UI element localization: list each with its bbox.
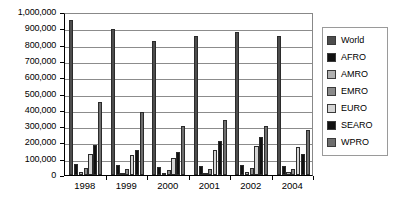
chart-legend: WorldAFROAMROEMROEUROSEAROWPRO [322, 27, 388, 156]
bar-afro-1999 [116, 165, 120, 175]
legend-item-label: EMRO [341, 87, 368, 96]
x-axis-tick-label: 1998 [64, 180, 106, 191]
y-axis: 1,000,000900,000800,000700,000600,000500… [0, 0, 60, 210]
x-axis-tick-label: 2004 [272, 180, 314, 191]
bar-searo-2001 [218, 141, 222, 175]
bar-group [273, 14, 315, 175]
bar-world-1999 [111, 29, 115, 175]
x-axis-tick-label: 1999 [106, 180, 148, 191]
bar-group [65, 14, 107, 175]
bar-wpro-1999 [140, 112, 144, 175]
y-axis-tick-label: 800,000 [25, 41, 56, 50]
bar-searo-2002 [259, 137, 263, 175]
bar-world-2000 [152, 41, 156, 175]
bar-wpro-2000 [181, 126, 185, 175]
y-axis-tick-label: 0 [51, 171, 56, 180]
bar-emro-1998 [84, 168, 88, 175]
bar-emro-1999 [125, 169, 129, 175]
plot-area [64, 13, 313, 176]
legend-swatch-icon [327, 70, 336, 79]
bar-chart: 1,000,000900,000800,000700,000600,000500… [0, 0, 394, 210]
y-axis-tick-label: 300,000 [25, 122, 56, 131]
legend-swatch-icon [327, 36, 336, 45]
bar-amro-2000 [162, 173, 166, 175]
bar-euro-2001 [213, 150, 217, 175]
bar-group [231, 14, 273, 175]
bar-wpro-2001 [223, 120, 227, 175]
legend-item-label: SEARO [341, 121, 373, 130]
x-axis-tick-mark [313, 176, 314, 180]
bar-emro-2002 [250, 168, 254, 175]
legend-item-searo[interactable]: SEARO [327, 117, 384, 134]
y-axis-tick-label: 600,000 [25, 73, 56, 82]
bar-afro-1998 [74, 164, 78, 175]
bar-emro-2001 [208, 169, 212, 175]
x-axis: 199819992000200120022004 [64, 180, 313, 198]
bar-world-1998 [69, 20, 73, 175]
bar-searo-2000 [176, 152, 180, 175]
bar-euro-1998 [88, 154, 92, 175]
legend-swatch-icon [327, 53, 336, 62]
bar-euro-2004 [296, 147, 300, 175]
bar-group [107, 14, 149, 175]
bar-searo-1999 [135, 150, 139, 175]
y-axis-tick-label: 100,000 [25, 155, 56, 164]
y-axis-tick-label: 400,000 [25, 106, 56, 115]
x-axis-tick-label: 2000 [147, 180, 189, 191]
y-axis-tick-label: 500,000 [25, 90, 56, 99]
x-axis-tick-mark [272, 176, 273, 180]
bar-afro-2001 [199, 166, 203, 175]
y-axis-tick-label: 900,000 [25, 24, 56, 33]
bar-world-2001 [194, 36, 198, 175]
bar-world-2002 [235, 32, 239, 175]
bar-afro-2000 [157, 167, 161, 175]
bar-wpro-1998 [98, 102, 102, 175]
bar-euro-2002 [254, 146, 258, 175]
bar-afro-2004 [282, 166, 286, 175]
legend-item-label: World [341, 36, 364, 45]
legend-item-world[interactable]: World [327, 32, 384, 49]
legend-item-label: AMRO [341, 70, 368, 79]
bar-amro-2004 [286, 172, 290, 175]
x-axis-tick-mark [147, 176, 148, 180]
legend-swatch-icon [327, 121, 336, 130]
legend-item-amro[interactable]: AMRO [327, 66, 384, 83]
y-axis-tick-label: 200,000 [25, 138, 56, 147]
bar-afro-2002 [240, 165, 244, 175]
legend-item-afro[interactable]: AFRO [327, 49, 384, 66]
y-axis-tick-mark [60, 176, 64, 177]
y-axis-tick-label: 1,000,000 [18, 8, 56, 17]
legend-item-label: AFRO [341, 53, 366, 62]
bar-world-2004 [277, 36, 281, 175]
bar-emro-2000 [167, 170, 171, 175]
bar-searo-1998 [93, 145, 97, 175]
x-axis-tick-label: 2001 [189, 180, 231, 191]
legend-swatch-icon [327, 138, 336, 147]
bar-wpro-2004 [306, 130, 310, 175]
bar-euro-1999 [130, 155, 134, 175]
x-axis-tick-label: 2002 [230, 180, 272, 191]
x-axis-tick-mark [106, 176, 107, 180]
bar-group [190, 14, 232, 175]
legend-item-euro[interactable]: EURO [327, 100, 384, 117]
x-axis-tick-mark [230, 176, 231, 180]
bar-amro-1998 [79, 172, 83, 175]
bar-euro-2000 [171, 158, 175, 175]
y-axis-tick-label: 700,000 [25, 57, 56, 66]
bar-amro-1999 [120, 173, 124, 175]
bar-amro-2001 [203, 173, 207, 175]
bar-wpro-2002 [264, 126, 268, 175]
bar-emro-2004 [291, 169, 295, 175]
x-axis-tick-mark [189, 176, 190, 180]
legend-item-emro[interactable]: EMRO [327, 83, 384, 100]
legend-item-wpro[interactable]: WPRO [327, 134, 384, 151]
bar-group [148, 14, 190, 175]
bar-amro-2002 [245, 172, 249, 175]
legend-swatch-icon [327, 87, 336, 96]
legend-swatch-icon [327, 104, 336, 113]
legend-item-label: WPRO [341, 138, 369, 147]
bar-searo-2004 [301, 154, 305, 175]
legend-item-label: EURO [341, 104, 367, 113]
bars-layer [65, 14, 312, 175]
